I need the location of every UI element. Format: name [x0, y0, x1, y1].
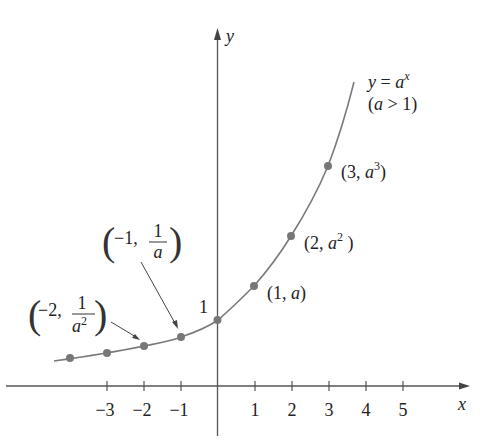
p1-close: ) [300, 283, 306, 304]
func-eq: = [376, 72, 395, 92]
exponential-chart: x y −3 −2 −1 1 2 3 4 5 1 [0, 0, 480, 442]
p3-close: ) [380, 162, 386, 183]
tick-label: 3 [325, 400, 334, 420]
x-axis-label: x [457, 394, 466, 414]
point-x-1 [250, 282, 258, 290]
pm1-rparen: ) [169, 219, 182, 264]
point-x-neg3 [103, 349, 111, 357]
tick-label: −2 [132, 400, 151, 420]
annotation-point-neg1: ( −1, 1 a ) [102, 219, 182, 329]
func-y: y [366, 72, 376, 92]
p1-open: (1, [267, 283, 291, 304]
y-axis-label: y [224, 26, 234, 46]
x-axis-arrow-icon [459, 383, 470, 390]
cond-a: a [374, 94, 383, 114]
pm2-den-a: a [72, 316, 81, 336]
annotation-point-1: (1, a) [267, 283, 306, 304]
pm1-num: 1 [154, 221, 163, 241]
func-exp: x [403, 69, 410, 83]
y-axis-arrow-icon [214, 28, 221, 40]
annotation-point-3: (3, a3) [341, 159, 386, 183]
tick-label: −1 [169, 400, 188, 420]
pm1-leader-line [141, 262, 176, 325]
point-x-2 [287, 232, 295, 240]
pm2-den-exp: 2 [81, 314, 87, 328]
pm2-rparen: ) [94, 292, 107, 337]
pm2-x: −2, [38, 300, 62, 320]
tick-label: 4 [362, 400, 371, 420]
annotation-point-2: (2, a2 ) [304, 230, 354, 254]
pm2-leader-line [111, 322, 136, 337]
p1-a: a [291, 283, 300, 303]
svg-text:y = ax: y = ax [366, 69, 410, 92]
x-tick-labels: −3 −2 −1 1 2 3 4 5 [95, 400, 407, 420]
p2-close: ) [343, 233, 354, 254]
point-x-3 [324, 162, 332, 170]
func-a: a [395, 72, 404, 92]
pm1-den: a [154, 242, 163, 262]
point-x-neg4 [66, 354, 74, 362]
cond-rest: > 1) [383, 94, 417, 115]
y-axis: y [214, 26, 234, 436]
pm1-leader-arrow-icon [172, 320, 178, 329]
p2-a: a [328, 233, 337, 253]
p3-a: a [365, 162, 374, 182]
tick-label: 5 [399, 400, 408, 420]
point-x-neg2 [140, 342, 148, 350]
tick-label: 1 [251, 400, 260, 420]
pm2-den: a2 [72, 314, 87, 336]
tick-label: 2 [288, 400, 297, 420]
p2-open: (2, [304, 233, 328, 254]
annotation-point-neg2: ( −2, 1 a2 ) [28, 292, 140, 340]
pm1-x: −1, [114, 228, 138, 248]
pm2-num: 1 [78, 293, 87, 313]
function-label: y = ax (a > 1) [366, 69, 417, 115]
point-x-neg1 [177, 333, 185, 341]
p3-open: (3, [341, 162, 365, 183]
point-x-0 [214, 316, 222, 324]
tick-label: −3 [95, 400, 114, 420]
y-intercept-label: 1 [199, 297, 208, 317]
condition-label: (a > 1) [368, 94, 417, 115]
